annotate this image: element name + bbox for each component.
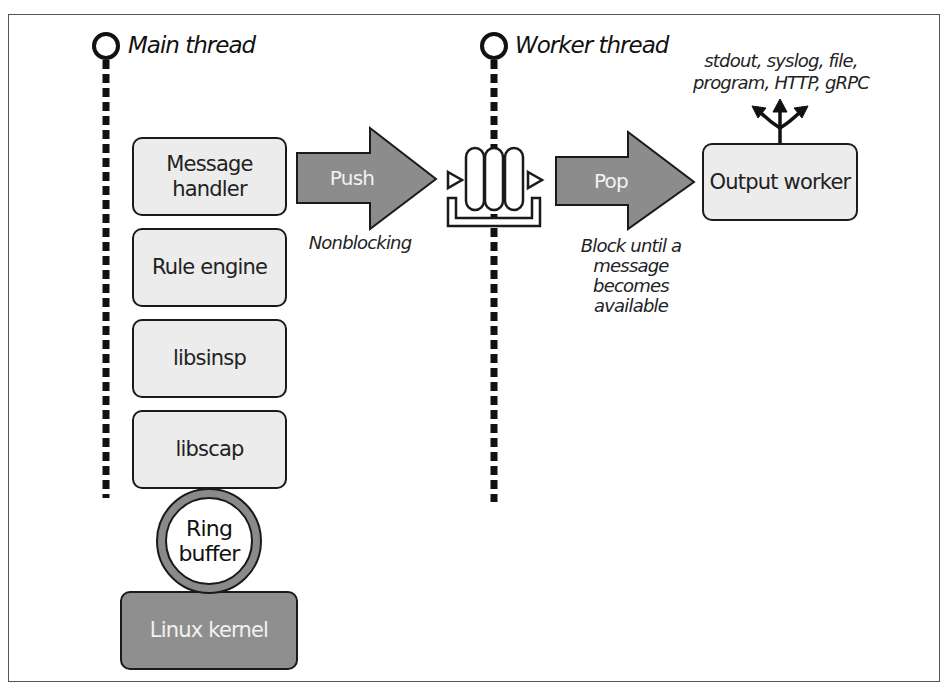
fan-out-arrows-icon	[752, 99, 808, 143]
pop-caption-line2: message becomes	[556, 256, 706, 296]
message-handler-line2: handler	[172, 177, 247, 202]
ring-buffer-line1: Ring	[186, 516, 232, 541]
output-destinations-line1: stdout, syslog, file,	[686, 50, 876, 72]
pop-caption-line1: Block until a	[556, 236, 706, 256]
rule-engine-label: Rule engine	[133, 229, 286, 306]
message-handler-line1: Message	[166, 152, 252, 177]
push-label: Push	[297, 153, 407, 203]
push-caption: Nonblocking	[300, 232, 420, 253]
linux-kernel-label: Linux kernel	[121, 592, 297, 669]
output-destinations-line2: program, HTTP, gRPC	[686, 72, 876, 94]
libsinsp-label: libsinsp	[133, 320, 286, 397]
message-handler-label: Message handler	[133, 138, 286, 215]
pop-caption: Block until a message becomes available	[556, 236, 706, 316]
ring-buffer-label: Ring buffer	[167, 506, 251, 576]
output-worker-label: Output worker	[703, 144, 857, 220]
pop-caption-line3: available	[556, 296, 706, 316]
main-thread-line	[94, 34, 118, 498]
pop-label: Pop	[556, 157, 666, 205]
worker-thread-title: Worker thread	[515, 32, 668, 58]
main-thread-title: Main thread	[128, 32, 255, 58]
output-destinations: stdout, syslog, file, program, HTTP, gRP…	[686, 50, 876, 94]
ring-buffer-line2: buffer	[178, 541, 239, 566]
libscap-label: libscap	[133, 411, 286, 488]
worker-thread-line	[482, 34, 506, 502]
